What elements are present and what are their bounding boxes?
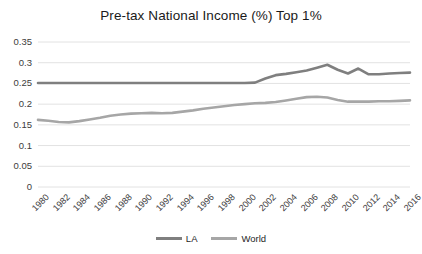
y-tick-label: 0.15: [2, 119, 32, 130]
y-tick-label: 0.1: [2, 140, 32, 151]
legend-item-la[interactable]: LA: [156, 233, 198, 244]
y-tick-label: 0.35: [2, 36, 32, 47]
chart-container: Pre-tax National Income (%) Top 1% 00.05…: [0, 0, 422, 254]
series-lines: [38, 65, 410, 123]
y-tick-label: 0.3: [2, 57, 32, 68]
y-tick-label: 0: [2, 181, 32, 192]
legend-swatch-icon: [211, 237, 237, 240]
legend-swatch-icon: [156, 237, 182, 240]
y-tick-label: 0.2: [2, 98, 32, 109]
y-tick-label: 0.25: [2, 77, 32, 88]
y-tick-label: 0.05: [2, 160, 32, 171]
chart-legend: LAWorld: [0, 233, 422, 244]
legend-label: LA: [186, 233, 198, 244]
plot-area: [0, 0, 422, 254]
series-line-la: [38, 65, 410, 83]
series-line-world: [38, 97, 410, 123]
gridlines: [38, 42, 410, 187]
legend-label: World: [241, 233, 266, 244]
legend-item-world[interactable]: World: [211, 233, 266, 244]
